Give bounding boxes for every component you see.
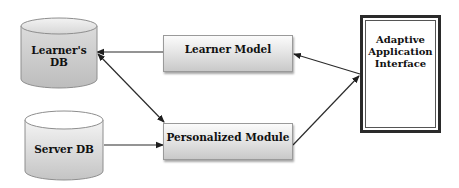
interface-label-line2: Application xyxy=(363,46,438,58)
interface-label-line1: Adaptive xyxy=(363,34,438,46)
learners-db-node: Learner's DB xyxy=(20,17,98,89)
server-db-node: Server DB xyxy=(24,110,104,181)
arrow-personalized-module-to-interface xyxy=(293,76,359,145)
personalized-module-label: Personalized Module xyxy=(166,131,289,143)
learners-db-label-line1: Learner's xyxy=(20,44,98,56)
learner-model-node: Learner Model xyxy=(163,35,293,72)
adaptive-application-interface-node: Adaptive Application Interface xyxy=(360,15,441,133)
arrow-interface-to-learner-model xyxy=(294,54,360,74)
system-architecture-diagram: Learner's DB Server DB Learner Model Per… xyxy=(0,0,459,188)
interface-label-line3: Interface xyxy=(363,58,438,70)
learner-model-label: Learner Model xyxy=(185,43,272,55)
arrow-learners-db-to-personalized-module xyxy=(98,54,164,122)
server-db-label: Server DB xyxy=(24,143,104,155)
personalized-module-node: Personalized Module xyxy=(163,123,293,160)
learners-db-label-line2: DB xyxy=(20,56,98,68)
